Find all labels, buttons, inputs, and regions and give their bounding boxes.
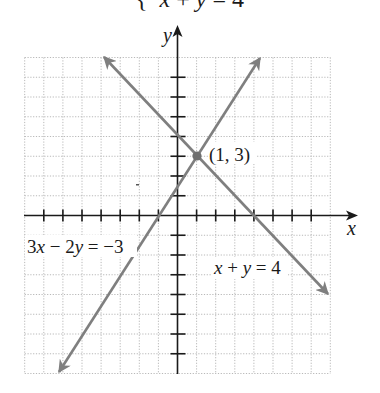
line2-op: + (222, 257, 242, 278)
line2-rhs: = 4 (251, 257, 281, 278)
line1-coef: 3 (27, 236, 37, 257)
x-axis-label: x (346, 217, 356, 239)
line1-rhs: = −3 (83, 236, 123, 257)
line2-label: x + y = 4 (213, 257, 281, 278)
intersection-point (192, 151, 201, 160)
y-axis-label: y (161, 24, 172, 47)
line1-label: 3x − 2y = −3 (27, 236, 124, 257)
line1-op: − 2 (45, 236, 75, 257)
point-label: (1, 3) (209, 144, 250, 166)
stray-mark (136, 184, 139, 186)
x-axis (24, 211, 358, 221)
line1-y: y (73, 236, 84, 257)
coordinate-plane: y x (1, 3) 3x − 2y = −3 x + y = 4 (0, 0, 380, 393)
line2-y: y (241, 257, 252, 278)
